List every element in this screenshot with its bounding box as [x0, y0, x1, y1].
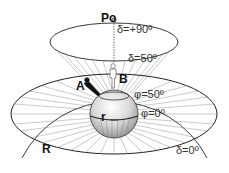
celestial-sphere-diagram: Po δ=+90º δ=50º A B φ=50º φ=0º r R δ=0º [0, 0, 229, 173]
earth-sphere [90, 90, 138, 138]
observer-a-label: A [76, 80, 85, 92]
declination-90-label: δ=+90º [117, 24, 152, 35]
observer-b-label: B [119, 73, 128, 85]
observer-a-figure [84, 78, 100, 96]
pole-label: Po [101, 12, 116, 24]
observer-b-figure [110, 64, 116, 88]
earth-radius-label: r [101, 111, 106, 123]
declination-50-label: δ=50º [128, 53, 157, 64]
declination-0-label: δ=0º [176, 145, 199, 156]
latitude-0-label: φ=0º [141, 108, 165, 119]
latitude-50-label: φ=50º [134, 89, 164, 100]
sphere-radius-label: R [42, 143, 51, 155]
